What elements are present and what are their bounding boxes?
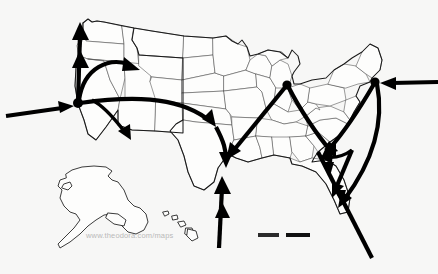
- scale-bar: [258, 233, 310, 237]
- northeast-hub: [370, 77, 379, 86]
- scale-bar-segment-2: [286, 233, 310, 237]
- migration-flow-map: www.theodora.com/maps: [0, 0, 438, 274]
- pacific-inbound-flow: [6, 101, 74, 116]
- gulf-inbound-flow: [214, 176, 231, 248]
- scale-bar-gap: [279, 233, 286, 237]
- scale-bar-segment-1: [258, 233, 279, 237]
- watermark: www.theodora.com/maps: [86, 231, 173, 240]
- great-lakes-hub: [282, 80, 291, 89]
- west-coast-hub: [73, 98, 83, 108]
- atlantic-inbound-flow: [380, 77, 438, 90]
- map-canvas: [0, 0, 438, 274]
